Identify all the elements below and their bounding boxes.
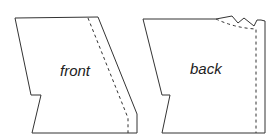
pattern-pieces-drawing [0, 0, 277, 137]
pattern-diagram: front back [0, 0, 277, 137]
back-darts [216, 16, 261, 26]
back-seam-allowance-line [216, 19, 256, 133]
front-label: front [60, 62, 90, 79]
back-label: back [190, 60, 222, 77]
